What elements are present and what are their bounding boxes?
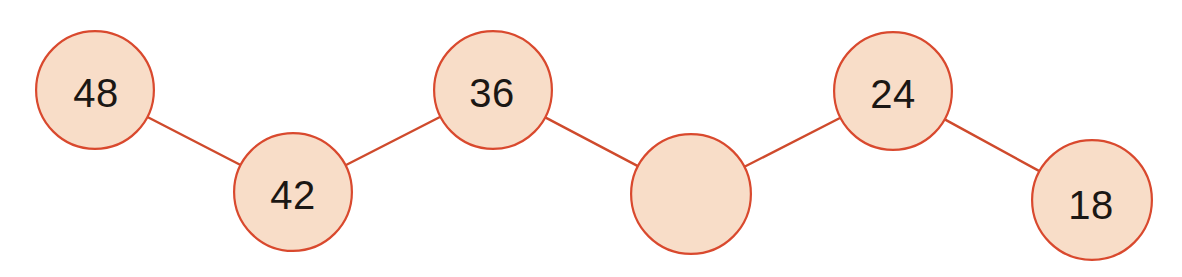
chain-node-circle[interactable] bbox=[834, 32, 952, 150]
chain-node-circle[interactable] bbox=[1032, 140, 1152, 260]
chain-svg bbox=[0, 0, 1182, 277]
chain-connector bbox=[147, 117, 240, 165]
chain-connector bbox=[945, 119, 1040, 171]
chain-node-circle[interactable] bbox=[36, 31, 154, 149]
chain-node-circle[interactable] bbox=[434, 31, 552, 149]
chain-node-circle[interactable] bbox=[234, 133, 352, 251]
chain-node-circle-blank[interactable] bbox=[631, 134, 751, 254]
chain-connector bbox=[545, 117, 638, 166]
chain-connector bbox=[346, 117, 441, 165]
number-chain-diagram: 4842362418 bbox=[0, 0, 1182, 277]
chain-connector bbox=[744, 118, 840, 167]
